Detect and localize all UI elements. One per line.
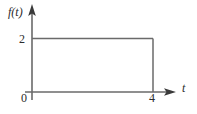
origin-label: 0: [21, 92, 27, 104]
plot-canvas: [0, 0, 197, 114]
x-axis-label: t: [182, 82, 185, 94]
y-axis-label: f(t): [8, 6, 23, 18]
y-tick-label-2: 2: [19, 33, 25, 45]
x-tick-label-4: 4: [149, 92, 155, 104]
figure-container: f(t) 2 0 4 t: [0, 0, 197, 114]
